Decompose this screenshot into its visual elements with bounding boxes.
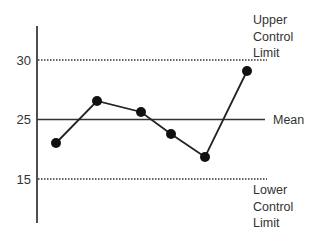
lcl-label-line-3: Limit <box>253 216 280 230</box>
y-tick-25: 25 <box>17 112 31 127</box>
data-point-3 <box>136 107 146 117</box>
ucl-annotation: Upper Control Limit <box>253 13 293 60</box>
data-point-1 <box>51 138 61 148</box>
data-point-4 <box>166 129 176 139</box>
data-point-6 <box>242 66 252 76</box>
y-tick-30: 30 <box>17 53 31 68</box>
data-markers <box>51 66 252 162</box>
ucl-label-line-3: Limit <box>253 46 280 60</box>
ucl-label-line-2: Control <box>253 30 293 44</box>
lcl-annotation: Lower Control Limit <box>253 183 293 230</box>
lcl-label-line-1: Lower <box>253 183 287 197</box>
mean-label: Mean <box>273 113 304 127</box>
ucl-label-line-1: Upper <box>253 13 287 27</box>
data-series-line <box>56 71 247 157</box>
data-point-2 <box>92 96 102 106</box>
y-tick-15: 15 <box>17 172 31 187</box>
lcl-label-line-2: Control <box>253 200 293 214</box>
control-chart: 30 25 15 Upper Control Limit Mean Lower … <box>0 0 314 239</box>
data-point-5 <box>200 152 210 162</box>
